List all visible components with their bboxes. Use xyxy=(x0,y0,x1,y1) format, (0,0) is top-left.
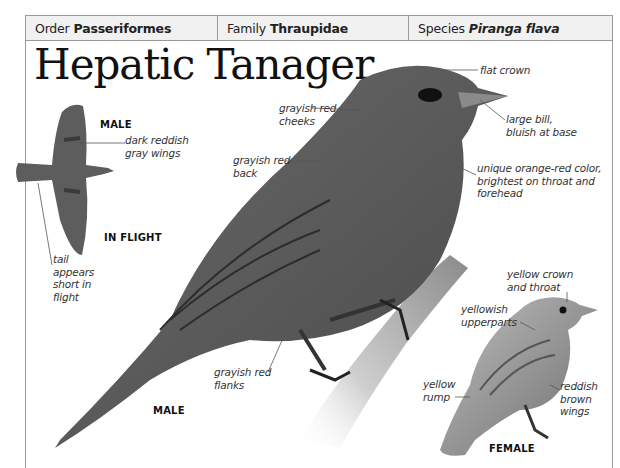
label-dark-wings: dark reddish gray wings xyxy=(125,134,189,159)
label-line: grayish red xyxy=(214,366,271,379)
label-line: reddish xyxy=(560,380,598,393)
label-line: yellow crown xyxy=(507,268,573,281)
label-line: bluish at base xyxy=(506,126,577,139)
label-line: grayish red xyxy=(279,102,336,115)
label-flanks: grayish red flanks xyxy=(214,366,271,391)
label-line: flat crown xyxy=(480,64,530,77)
label-line: flight xyxy=(53,291,94,304)
label-line: large bill, xyxy=(506,113,577,126)
label-line: rump xyxy=(423,391,455,404)
label-back: grayish red back xyxy=(233,154,290,179)
label-large-bill: large bill, bluish at base xyxy=(506,113,577,138)
label-line: forehead xyxy=(477,187,601,200)
female-caption: FEMALE xyxy=(489,443,535,454)
label-line: flanks xyxy=(214,379,271,392)
label-line: yellowish xyxy=(461,303,517,316)
flight-caption: IN FLIGHT xyxy=(104,232,162,243)
label-line: yellow xyxy=(423,378,455,391)
label-line: back xyxy=(233,167,290,180)
label-line: brightest on throat and xyxy=(477,175,601,188)
label-line: grayish red xyxy=(233,154,290,167)
label-line: unique orange-red color, xyxy=(477,162,601,175)
label-line: brown xyxy=(560,393,598,406)
label-line: gray wings xyxy=(125,147,189,160)
label-line: cheeks xyxy=(279,115,336,128)
label-yellowish-upperparts: yellowish upperparts xyxy=(461,303,517,328)
flight-male-caption: MALE xyxy=(100,119,132,130)
label-orange-red-color: unique orange-red color, brightest on th… xyxy=(477,162,601,200)
label-flat-crown: flat crown xyxy=(480,64,530,77)
label-cheeks: grayish red cheeks xyxy=(279,102,336,127)
label-yellow-crown: yellow crown and throat xyxy=(507,268,573,293)
label-line: wings xyxy=(560,405,598,418)
label-line: appears xyxy=(53,266,94,279)
label-line: tail xyxy=(53,253,94,266)
label-line: dark reddish xyxy=(125,134,189,147)
label-line: and throat xyxy=(507,281,573,294)
label-tail: tail appears short in flight xyxy=(53,253,94,303)
male-caption: MALE xyxy=(153,405,185,416)
label-line: short in xyxy=(53,278,94,291)
label-yellow-rump: yellow rump xyxy=(423,378,455,403)
label-reddish-wings: reddish brown wings xyxy=(560,380,598,418)
label-line: upperparts xyxy=(461,316,517,329)
